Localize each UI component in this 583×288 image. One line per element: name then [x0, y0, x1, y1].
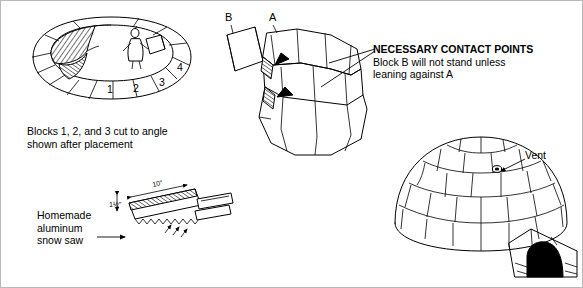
panel-blocks-ring: 1 2 3 4 [15, 9, 205, 129]
block-number-2: 2 [133, 82, 139, 94]
saw-length-dimension: 10" [152, 179, 164, 188]
panel-finished-igloo [381, 117, 581, 283]
contact-annotation-title: NECESSARY CONTACT POINTS [373, 43, 578, 56]
block-number-1: 1 [107, 83, 113, 95]
panel-blocks-caption-line-1: Blocks 1, 2, and 3 cut to angle [27, 125, 217, 138]
contact-leader-lines [271, 41, 381, 111]
label-block-a: A [269, 11, 277, 23]
contact-annotation: NECESSARY CONTACT POINTS Block B will no… [373, 43, 578, 81]
contact-annotation-line-2: Block B will not stand unless [373, 56, 578, 69]
snow-saw-pointer-arrow [97, 227, 139, 247]
panel-snow-saw: 1½" 10" [109, 181, 239, 271]
panel-blocks-caption: Blocks 1, 2, and 3 cut to angle shown af… [27, 125, 217, 150]
vent-label: Vent [525, 149, 546, 162]
snow-saw-caption-line-1: Homemade [37, 209, 117, 222]
label-block-b: B [225, 11, 232, 23]
block-number-4: 4 [177, 61, 183, 73]
contact-annotation-line-3: leaning against A [373, 68, 578, 81]
figure-person [123, 26, 148, 69]
panel-blocks-caption-line-2: shown after placement [27, 138, 217, 151]
saw-width-dimension: 1½" [109, 201, 122, 208]
block-number-3: 3 [159, 76, 165, 88]
diagram-page: 1 2 3 4 Blocks 1, 2, and 3 cut to angle … [0, 0, 583, 288]
vent-leader-line [487, 153, 529, 177]
